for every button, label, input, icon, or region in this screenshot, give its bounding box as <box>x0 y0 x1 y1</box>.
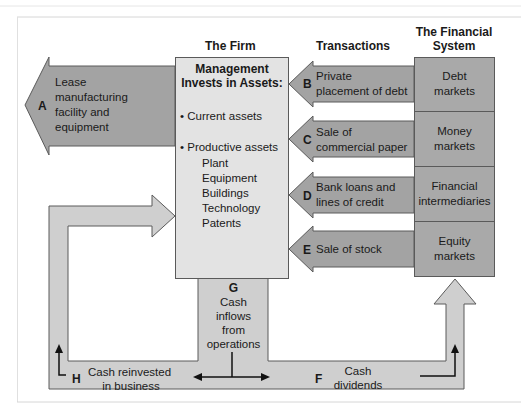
flow-b-letter: B <box>303 77 312 91</box>
asset-equipment: Equipment <box>202 171 257 185</box>
flow-d-letter: D <box>303 189 312 203</box>
market-money-line2: markets <box>414 139 495 153</box>
header-the-firm: The Firm <box>205 39 256 53</box>
asset-buildings: Buildings <box>202 186 249 200</box>
asset-patents: Patents <box>202 216 241 230</box>
flow-g-line2: inflows <box>199 309 268 323</box>
bullet-productive-assets: • Productive assets <box>180 140 278 154</box>
firm-box-shape <box>176 58 289 279</box>
flow-a-letter: A <box>38 99 47 113</box>
header-financial-system-line2: System <box>414 39 494 53</box>
flow-d-line1: Bank loans and <box>316 180 395 194</box>
flow-g-letter: G <box>199 281 268 295</box>
flow-f-line1: Cash <box>328 364 388 378</box>
flow-e-line1: Sale of stock <box>316 242 382 256</box>
header-financial-system-line1: The Financial <box>414 25 494 39</box>
market-equity-line2: markets <box>414 249 495 263</box>
flow-g-line4: operations <box>199 337 268 351</box>
market-equity-line1: Equity <box>414 234 495 248</box>
firm-box-title-line2: Invests in Assets: <box>176 76 288 90</box>
flow-f-line2: dividends <box>328 378 388 392</box>
flow-e-letter: E <box>303 243 311 257</box>
flow-a-line4: equipment <box>55 120 109 134</box>
market-debt-line1: Debt <box>414 69 495 83</box>
flow-a-line2: manufacturing <box>55 90 128 104</box>
flow-f-letter: F <box>315 372 322 386</box>
flow-c-line2: commercial paper <box>316 140 407 154</box>
flow-b-line2: placement of debt <box>316 84 407 98</box>
asset-technology: Technology <box>202 201 260 215</box>
flow-a-line3: facility and <box>55 105 109 119</box>
market-debt-line2: markets <box>414 84 495 98</box>
market-money-line1: Money <box>414 124 495 138</box>
flow-g-line3: from <box>199 323 268 337</box>
header-transactions: Transactions <box>316 39 390 53</box>
flow-h-letter: H <box>72 372 81 386</box>
flow-b-line1: Private <box>316 69 352 83</box>
flow-c-letter: C <box>303 133 312 147</box>
market-fi-line1: Financial <box>414 179 495 193</box>
flow-d-line2: lines of credit <box>316 195 384 209</box>
asset-plant: Plant <box>202 156 228 170</box>
flow-g-line1: Cash <box>199 295 268 309</box>
market-fi-line2: intermediaries <box>414 194 495 208</box>
flow-h-line1: Cash reinvested <box>88 365 171 379</box>
flow-h-line2: in business <box>88 379 174 393</box>
flow-a-line1: Lease <box>55 75 86 89</box>
firm-box-title-line1: Management <box>176 62 288 76</box>
bullet-current-assets: • Current assets <box>180 109 262 123</box>
flow-c-line1: Sale of <box>316 125 352 139</box>
